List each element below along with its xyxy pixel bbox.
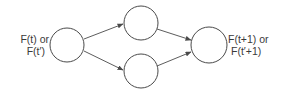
edge-lower-to-output (157, 52, 191, 66)
input-label-line1: F(t) or (3, 33, 49, 45)
input-label-line2: F(t′) (3, 45, 49, 57)
output-label-line2: F(t′+1) (228, 45, 269, 57)
output-label-line1: F(t+1) or (228, 33, 269, 45)
node-output (191, 27, 227, 63)
edge-input-to-upper (84, 24, 123, 39)
node-input (50, 28, 84, 62)
output-label: F(t+1) or F(t′+1) (228, 33, 269, 57)
edge-upper-to-output (157, 29, 191, 40)
node-lower-middle (124, 54, 158, 88)
input-label: F(t) or F(t′) (3, 33, 49, 57)
edge-input-to-lower (84, 51, 123, 70)
node-upper-middle (124, 6, 158, 40)
